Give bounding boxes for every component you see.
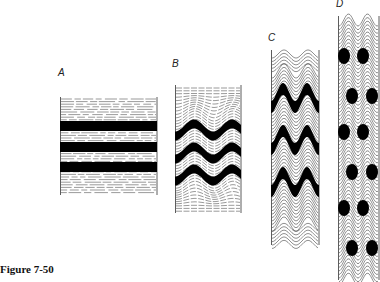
panel-a-label: A (58, 67, 65, 78)
bedding-line (176, 198, 240, 201)
boudin-11 (346, 240, 358, 256)
panel-a-diagram (60, 97, 158, 196)
folded-layer-2 (271, 125, 319, 155)
bedding-line (176, 104, 240, 111)
boudin-2 (357, 48, 369, 64)
bedding-line (176, 109, 240, 118)
bedding-line (176, 192, 240, 198)
boudin-4 (366, 88, 378, 104)
bedding-line (176, 205, 240, 206)
competent-layer-1 (60, 121, 157, 131)
bedding-line (176, 202, 240, 204)
folded-layer-1 (175, 120, 241, 141)
boudin-5 (338, 124, 350, 140)
panel-c-label: C (268, 32, 275, 43)
boudin-1 (338, 48, 350, 64)
boudin-12 (366, 240, 378, 256)
figure-caption: Figure 7-50 (0, 263, 54, 275)
boudin-3 (346, 88, 358, 104)
competent-layer-3 (60, 162, 157, 172)
bedding-line (176, 100, 240, 104)
panel-d-label: D (336, 0, 343, 9)
competent-layer-2 (60, 142, 157, 152)
panel-b-label: B (172, 58, 179, 69)
folded-layer-3 (175, 165, 241, 186)
boudin-10 (357, 200, 369, 216)
boudin-9 (338, 200, 350, 216)
boudin-7 (346, 164, 358, 180)
panel-c-diagram (271, 50, 320, 246)
boudin-8 (366, 164, 378, 180)
bedding-line (176, 96, 240, 98)
panel-b-diagram (175, 85, 242, 214)
boudin-6 (357, 124, 369, 140)
bedding-line (339, 14, 378, 26)
panel-d-diagram (338, 16, 380, 282)
